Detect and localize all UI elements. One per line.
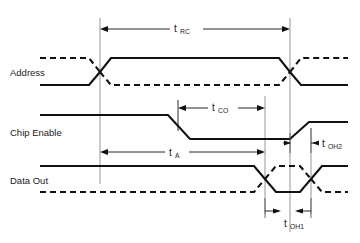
signal-label-chip-enable: Chip Enable	[10, 127, 62, 138]
t-co-label: t	[212, 102, 215, 113]
measurement-t-oh2: t OH2	[283, 128, 342, 153]
t-rc-arrow-right	[282, 26, 290, 32]
signal-label-address: Address	[10, 67, 45, 78]
t-oh1-arrow-right	[295, 209, 303, 214]
signal-address: Address	[10, 58, 348, 85]
chip-enable-waveform	[40, 115, 348, 139]
signal-chip-enable: Chip Enable	[10, 115, 348, 139]
signal-data-out: Data Out	[10, 166, 348, 192]
data-out-solid-segment-1	[40, 166, 311, 192]
t-oh2-label: t	[322, 138, 325, 149]
t-oh2-arrow-right	[312, 141, 319, 146]
t-co-arrow-right	[257, 105, 265, 111]
t-a-subscript: A	[175, 152, 180, 159]
t-rc-subscript: RC	[180, 28, 190, 35]
data-out-dashed-segment-2	[265, 166, 311, 179]
t-a-arrow-right	[257, 149, 265, 155]
address-solid-segment-1	[40, 58, 290, 85]
t-co-arrow-left	[178, 105, 186, 111]
measurement-t-oh1: t OH1	[265, 198, 311, 230]
data-out-dashed-segment-1	[40, 179, 265, 192]
address-dashed-segment-3	[290, 58, 348, 72]
address-dashed-segment-1	[40, 58, 100, 72]
measurement-t-co: t CO	[178, 100, 265, 131]
t-a-label: t	[169, 147, 172, 158]
measurement-t-rc: t RC	[100, 23, 290, 35]
t-co-subscript: CO	[218, 107, 228, 114]
t-a-arrow-left	[100, 149, 108, 155]
address-solid-segment-2	[290, 72, 348, 85]
timing-diagram-canvas: t RC Address t CO Chip Enable	[0, 0, 360, 243]
data-out-dashed-segment-3	[311, 179, 348, 192]
t-oh1-label: t	[284, 218, 287, 229]
t-rc-arrow-left	[100, 26, 108, 32]
t-oh1-arrow-left	[273, 209, 281, 214]
signal-label-data-out: Data Out	[10, 175, 48, 186]
timing-diagram-page: t RC Address t CO Chip Enable	[0, 0, 360, 243]
reference-lines-group	[100, 18, 311, 232]
data-out-solid-segment-2	[311, 166, 348, 179]
address-dashed-segment-2	[100, 72, 290, 85]
t-oh2-subscript: OH2	[328, 143, 342, 150]
measurement-t-a: t A	[100, 147, 265, 159]
t-oh1-subscript: OH1	[290, 223, 304, 230]
t-rc-label: t	[174, 23, 177, 34]
